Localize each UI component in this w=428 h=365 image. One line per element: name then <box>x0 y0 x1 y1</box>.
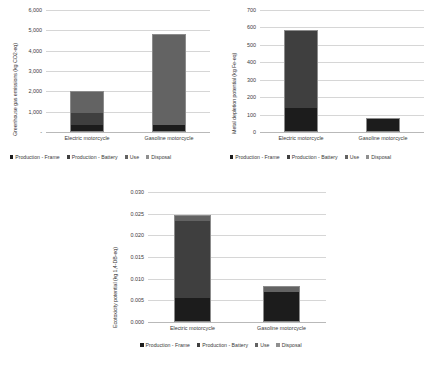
legend-swatch-icon <box>230 155 233 158</box>
y-axis-tick-label: 1,000 <box>29 109 43 115</box>
legend-swatch-icon <box>366 155 369 158</box>
legend-item[interactable]: Production - Frame <box>140 342 190 348</box>
bar-group <box>260 10 424 132</box>
bar-segment[interactable] <box>71 92 103 113</box>
legend-item[interactable]: Disposal <box>276 342 301 348</box>
y-axis-tick-label: 4,000 <box>29 48 43 54</box>
gridline <box>260 132 424 133</box>
figure-canvas: Greenhouse gas emissions (kg CO2-eq) -1,… <box>0 0 428 365</box>
y-axis-tick-label: 0 <box>253 129 256 135</box>
x-axis-label: Gasoline motorcycle <box>145 135 194 141</box>
y-axis-tick-label: 200 <box>247 94 256 100</box>
y-axis-tick-label: 400 <box>247 59 256 65</box>
x-axis-label: Electric motorcycle <box>64 135 109 141</box>
legend-item[interactable]: Production - Frame <box>10 154 60 160</box>
x-axis-label: Electric motorcycle <box>278 135 323 141</box>
y-axis-tick-label: 0.030 <box>131 189 145 195</box>
legend-label: Use <box>350 154 359 160</box>
bar-column[interactable] <box>263 192 300 322</box>
stacked-bar[interactable] <box>263 286 300 322</box>
bar-segment[interactable] <box>285 31 317 108</box>
y-axis-ticks: 0.0000.0050.0100.0150.0200.0250.030 <box>114 192 144 322</box>
x-axis-labels: Electric motorcycleGasoline motorcycle <box>148 325 326 335</box>
bar-column[interactable] <box>152 10 186 132</box>
chart-greenhouse-gas: Greenhouse gas emissions (kg CO2-eq) -1,… <box>0 4 214 164</box>
x-axis-labels: Electric motorcycleGasoline motorcycle <box>260 135 424 145</box>
legend-label: Disposal <box>371 154 391 160</box>
legend-swatch-icon <box>255 343 258 346</box>
legend-swatch-icon <box>345 155 348 158</box>
chart-ecotoxicity: Ecotoxicity potential (kg 1,4-DB-eq) 0.0… <box>103 186 331 362</box>
bar-segment[interactable] <box>71 125 103 131</box>
stacked-bar[interactable] <box>152 34 186 133</box>
legend-item[interactable]: Disposal <box>366 154 391 160</box>
legend-label: Production - Frame <box>15 154 59 160</box>
legend-item[interactable]: Production - Battery <box>67 154 118 160</box>
legend-item[interactable]: Disposal <box>146 154 171 160</box>
bar-segment[interactable] <box>285 108 317 131</box>
y-axis-tick-label: 2,000 <box>29 88 43 94</box>
stacked-bar[interactable] <box>70 91 104 132</box>
stacked-bar[interactable] <box>366 118 400 132</box>
legend-label: Use <box>260 342 269 348</box>
gridline <box>148 322 326 323</box>
legend-swatch-icon <box>67 155 70 158</box>
legend-swatch-icon <box>10 155 13 158</box>
legend-label: Disposal <box>151 154 171 160</box>
bar-column[interactable] <box>174 192 211 322</box>
y-axis-tick-label: - <box>40 129 42 135</box>
y-axis-tick-label: 0.025 <box>131 211 145 217</box>
bar-column[interactable] <box>366 10 400 132</box>
legend-swatch-icon <box>197 343 200 346</box>
stacked-bar[interactable] <box>284 30 318 132</box>
y-axis-tick-label: 0.015 <box>131 254 145 260</box>
legend-swatch-icon <box>125 155 128 158</box>
bar-group <box>46 10 210 132</box>
y-axis-tick-label: 3,000 <box>29 68 43 74</box>
bar-column[interactable] <box>70 10 104 132</box>
bar-segment[interactable] <box>175 298 210 321</box>
y-axis-tick-label: 100 <box>247 112 256 118</box>
y-axis-tick-label: 0.000 <box>131 319 145 325</box>
y-axis-tick-label: 500 <box>247 42 256 48</box>
legend-label: Disposal <box>282 342 302 348</box>
bar-segment[interactable] <box>153 35 185 126</box>
gridline <box>46 132 210 133</box>
legend-swatch-icon <box>146 155 149 158</box>
y-axis-ticks: 0100200300400500600700 <box>234 10 256 132</box>
legend-swatch-icon <box>140 343 143 346</box>
chart-legend: Production - FrameProduction - BatteryUs… <box>230 154 428 160</box>
legend-label: Production - Battery <box>292 154 338 160</box>
bar-column[interactable] <box>284 10 318 132</box>
legend-item[interactable]: Use <box>255 342 269 348</box>
y-axis-ticks: -1,0002,0003,0004,0005,0006,000 <box>14 10 42 132</box>
y-axis-tick-label: 0.020 <box>131 232 145 238</box>
bar-segment[interactable] <box>175 221 210 298</box>
y-axis-tick-label: 0.005 <box>131 297 145 303</box>
legend-item[interactable]: Production - Battery <box>287 154 338 160</box>
bar-segment[interactable] <box>71 113 103 125</box>
bar-segment[interactable] <box>153 125 185 131</box>
chart-legend: Production - FrameProduction - BatteryUs… <box>110 342 332 348</box>
legend-swatch-icon <box>276 343 279 346</box>
bar-segment[interactable] <box>264 292 299 321</box>
legend-label: Use <box>130 154 139 160</box>
y-axis-tick-label: 0.010 <box>131 276 145 282</box>
legend-label: Production - Battery <box>202 342 248 348</box>
y-axis-tick-label: 5,000 <box>29 27 43 33</box>
stacked-bar[interactable] <box>174 215 211 322</box>
y-axis-tick-label: 700 <box>247 7 256 13</box>
x-axis-label: Electric motorcycle <box>170 325 215 331</box>
legend-item[interactable]: Production - Frame <box>230 154 280 160</box>
bar-group <box>148 192 326 322</box>
legend-item[interactable]: Use <box>345 154 359 160</box>
x-axis-label: Gasoline motorcycle <box>359 135 408 141</box>
chart-metal-depletion: Metal depletion potential (kg Fe-eq) 010… <box>224 4 428 164</box>
y-axis-tick-label: 600 <box>247 24 256 30</box>
x-axis-labels: Electric motorcycleGasoline motorcycle <box>46 135 210 145</box>
legend-item[interactable]: Use <box>125 154 139 160</box>
legend-label: Production - Frame <box>235 154 279 160</box>
bar-segment[interactable] <box>367 119 399 131</box>
legend-item[interactable]: Production - Battery <box>197 342 248 348</box>
x-axis-label: Gasoline motorcycle <box>257 325 306 331</box>
